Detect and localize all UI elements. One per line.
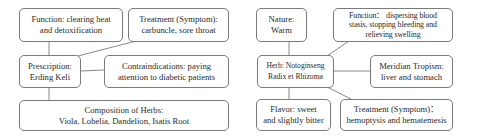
node-treatment: Treatment (Symptom): carbuncle, sore thr… (128, 8, 229, 42)
link-prescription-treatment (78, 41, 136, 56)
node-text-line: and slightly bitter (263, 115, 324, 126)
node-prescription-center: Prescription: Erding Keli (19, 55, 81, 88)
node-composition: Composition of Herbs: Viola, Lobelia, Da… (19, 100, 229, 131)
node-text-line: liver and stomach (379, 72, 444, 83)
node-text-line: carbuncle, sore throat (139, 25, 218, 36)
node-text-line: Function: clearing heat (31, 14, 110, 25)
node-text-line: Function： dispersing blood (349, 11, 437, 20)
node-text-line: Flavor: sweet (263, 104, 324, 115)
link-herb-function (327, 41, 349, 56)
node-herb-center: Herb: Notoginseng Radix et Rhizoma (257, 55, 334, 88)
node-text-line: Nature: (269, 14, 295, 25)
node-nature: Nature: Warm (256, 8, 307, 42)
node-text-line: attention to diabetic patients (118, 72, 215, 83)
node-text-line: Radix et Rhizoma (267, 72, 325, 82)
node-text-line: stasis, stopping bleeding and (349, 20, 437, 29)
node-text-line: hemoptysis and hematemesis (346, 115, 446, 126)
node-text-line: Contraindications: paying (118, 61, 215, 72)
node-text-line: Viola, Lobelia, Dandelion, Isatis Root (59, 116, 190, 127)
node-text-line: Warm (269, 25, 295, 36)
node-text-line: Erding Keli (28, 72, 72, 83)
node-text-line: and detoxification (31, 25, 110, 36)
node-flavor: Flavor: sweet and slightly bitter (256, 99, 331, 131)
node-meridian: Meridian Tropism: liver and stomach (370, 55, 453, 88)
node-text-line: relieving swelling (349, 30, 437, 39)
node-treatment: Treatment (Symptom)： hemoptysis and hema… (340, 99, 453, 131)
node-function: Function: clearing heat and detoxificati… (19, 8, 123, 42)
node-text-line: Composition of Herbs: (59, 105, 190, 116)
node-text-line: Meridian Tropism: (379, 61, 444, 72)
node-contraindications: Contraindications: paying attention to d… (104, 55, 229, 88)
node-text-line: Prescription: (28, 61, 72, 72)
link-herb-treatment (327, 87, 351, 99)
link-prescription-contraindications (81, 70, 104, 71)
node-text-line: Treatment (Symptom)： (346, 104, 446, 115)
node-function: Function： dispersing blood stasis, stopp… (333, 8, 453, 42)
node-text-line: Herb: Notoginseng (267, 61, 325, 71)
node-text-line: Treatment (Symptom): (139, 14, 218, 25)
